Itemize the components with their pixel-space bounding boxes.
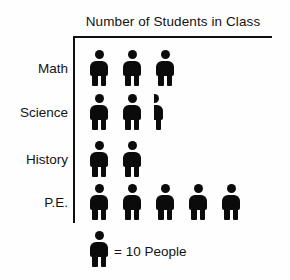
- chart-title: Number of Students in Class: [73, 14, 273, 29]
- row-label-history: History: [26, 152, 68, 167]
- person-icon: [121, 49, 154, 87]
- person-icon: [88, 49, 121, 87]
- person-icon: [88, 93, 121, 131]
- person-icon: [154, 49, 187, 87]
- pictogram-row-history: [88, 140, 154, 178]
- person-icon-partial: [154, 93, 187, 131]
- person-icon: [121, 183, 154, 221]
- x-axis-line: [73, 36, 272, 38]
- legend-person-icon: [88, 230, 112, 266]
- person-icon: [88, 140, 121, 178]
- y-axis-line: [73, 36, 75, 223]
- person-icon: [121, 93, 154, 131]
- row-label-pe: P.E.: [44, 195, 68, 210]
- person-icon: [187, 183, 220, 221]
- pictogram-row-pe: [88, 183, 253, 221]
- person-icon: [88, 183, 121, 221]
- chart-legend: = 10 People: [88, 230, 186, 266]
- person-icon: [121, 140, 154, 178]
- row-label-math: Math: [38, 61, 68, 76]
- pictograph-chart: Number of Students in Class MathScienceH…: [0, 0, 290, 280]
- legend-label: = 10 People: [114, 244, 186, 259]
- person-icon: [220, 183, 253, 221]
- pictogram-row-math: [88, 49, 187, 87]
- pictogram-row-science: [88, 93, 187, 131]
- person-icon: [154, 183, 187, 221]
- row-label-science: Science: [20, 105, 68, 120]
